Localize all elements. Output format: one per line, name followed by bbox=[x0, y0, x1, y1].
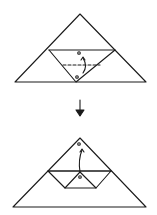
step-2-trapezoid-flap bbox=[48, 171, 111, 188]
step-1-outer-triangle bbox=[15, 14, 146, 82]
step-1-inner-flap bbox=[49, 50, 115, 82]
folding-diagram bbox=[0, 0, 157, 215]
step-2-circle-apex-marker bbox=[78, 143, 81, 146]
step-2-inner-triangle bbox=[65, 172, 96, 188]
step-2-diagram bbox=[13, 138, 146, 207]
down-arrow-icon bbox=[76, 100, 84, 116]
step-1-circle-top-marker bbox=[78, 52, 81, 55]
step-2-circle-center-marker bbox=[79, 176, 82, 179]
step-2-curved-fold-arrow bbox=[79, 150, 82, 172]
step-1-circle-bottom-marker bbox=[76, 76, 79, 79]
step-1-diagram bbox=[15, 14, 146, 82]
